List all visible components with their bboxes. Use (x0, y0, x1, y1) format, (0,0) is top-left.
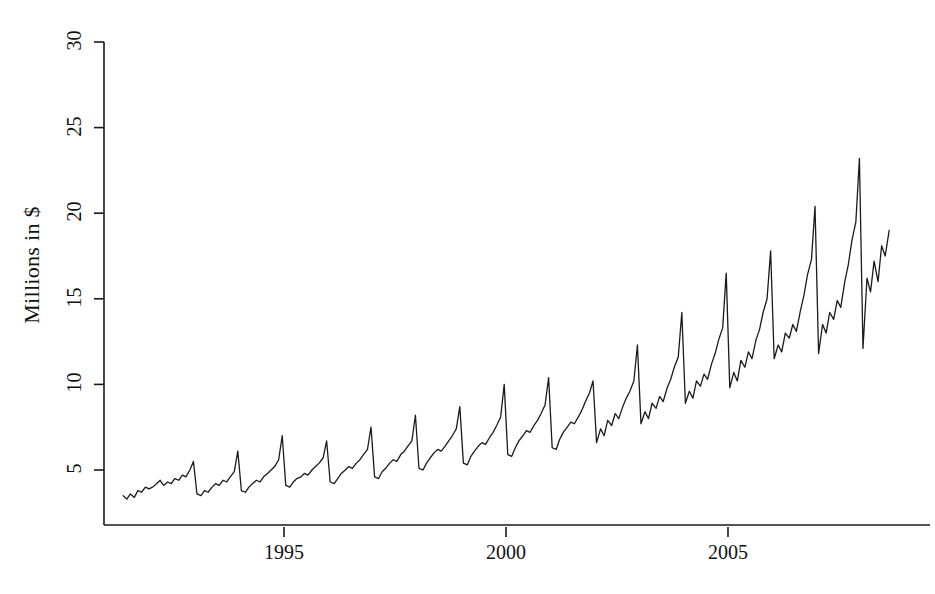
series-line-monthly-sales (123, 158, 889, 499)
y-axis-ticks (94, 42, 104, 470)
chart-figure: Millions in $ 51015202530 199520002005 (0, 0, 935, 594)
x-axis-ticks (284, 527, 728, 537)
plot-area (0, 0, 935, 594)
